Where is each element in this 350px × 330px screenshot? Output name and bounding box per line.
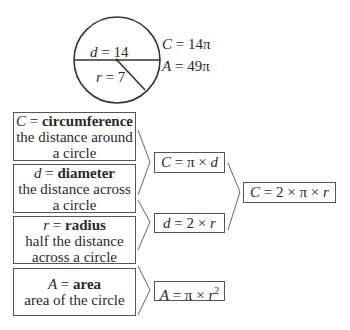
definition-box-diameter: d = diameter the distance across a circl… bbox=[13, 164, 136, 213]
definition-box-radius: r = radius half the distance across a ci… bbox=[13, 216, 136, 264]
chevron-a bbox=[138, 266, 150, 315]
chevron-d-r bbox=[138, 200, 150, 250]
chevron-combine bbox=[228, 163, 240, 230]
formula-diameter-radius: d = 2 × r bbox=[154, 213, 225, 233]
chevron-c-d bbox=[138, 130, 150, 195]
formula-area: A = π × r2 bbox=[154, 281, 225, 301]
definition-box-area: A = area area of the circle bbox=[13, 268, 136, 316]
diameter-label: d = 14 bbox=[90, 44, 128, 60]
formula-circumference-diameter: C = π × d bbox=[154, 152, 225, 173]
radius-label: r = 7 bbox=[96, 69, 125, 85]
circumference-value-label: C = 14π bbox=[162, 36, 211, 52]
definition-box-circumference: C = circumference the distance around a … bbox=[13, 112, 136, 161]
formula-circumference-radius: C = 2 × π × r bbox=[243, 182, 336, 203]
area-value-label: A = 49π bbox=[162, 58, 210, 74]
